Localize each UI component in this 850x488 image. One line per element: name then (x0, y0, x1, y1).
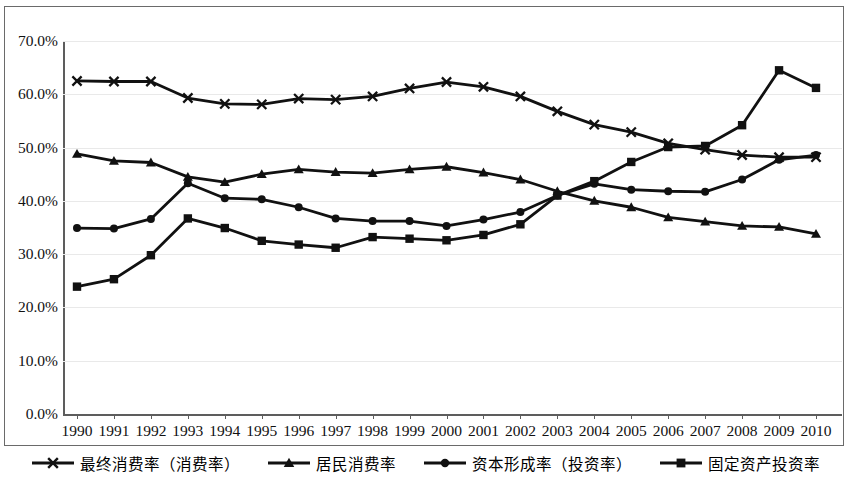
circle-marker-icon (422, 455, 468, 471)
data-point-marker (406, 217, 414, 225)
data-point-marker (701, 188, 709, 196)
x-axis-tick-mark (816, 414, 817, 419)
x-axis-tick-label: 1993 (172, 422, 203, 440)
x-axis-tick-mark (151, 414, 152, 419)
x-axis-tick-mark (299, 414, 300, 419)
data-point-marker (441, 459, 449, 467)
x-axis-tick-label: 2010 (801, 422, 832, 440)
x-axis-tick-mark (594, 414, 595, 419)
data-point-marker (664, 187, 672, 195)
legend-item-3[interactable]: 固定资产投资率 (658, 452, 820, 474)
legend-label: 最终消费率（消费率） (80, 452, 240, 474)
series-lines (63, 41, 842, 414)
data-point-marker (73, 224, 81, 232)
x-axis-tick-label: 2005 (616, 422, 647, 440)
data-point-marker (738, 176, 746, 184)
data-point-marker (73, 282, 81, 290)
x-marker-icon (30, 455, 76, 471)
x-axis-tick-label: 2004 (579, 422, 610, 440)
x-axis-tick-label: 2007 (690, 422, 721, 440)
x-axis-tick-mark (336, 414, 337, 419)
data-point-marker (553, 191, 561, 199)
data-point-marker (110, 225, 118, 233)
y-axis-labels: 0.0%10.0%20.0%30.0%40.0%50.0%60.0%70.0% (0, 0, 58, 488)
x-axis-tick-mark (520, 414, 521, 419)
x-axis-tick-mark (188, 414, 189, 419)
legend-item-1[interactable]: 居民消费率 (266, 452, 396, 474)
data-point-marker (258, 237, 266, 245)
x-axis-tick-label: 1998 (357, 422, 388, 440)
data-point-marker (812, 84, 820, 92)
x-axis-tick-mark (631, 414, 632, 419)
data-point-marker (221, 224, 229, 232)
x-axis-tick-label: 2003 (542, 422, 573, 440)
x-axis-tick-label: 2002 (505, 422, 536, 440)
data-point-marker (664, 143, 672, 151)
x-axis-tick-mark (410, 414, 411, 419)
x-axis-tick-mark (77, 414, 78, 419)
chart-figure: 0.0%10.0%20.0%30.0%40.0%50.0%60.0%70.0% … (0, 0, 850, 488)
data-point-marker (405, 234, 413, 242)
x-axis-tick-mark (447, 414, 448, 419)
data-point-marker (775, 66, 783, 74)
data-point-marker (516, 208, 524, 216)
data-point-marker (479, 231, 487, 239)
data-point-marker (295, 203, 303, 211)
y-axis-tick-label: 30.0% (2, 246, 58, 262)
x-axis-tick-label: 1999 (394, 422, 425, 440)
data-point-marker (331, 244, 339, 252)
plot-area (63, 41, 842, 414)
triangle-marker-icon (266, 455, 312, 471)
data-point-marker (147, 251, 155, 259)
legend-label: 资本形成率（投资率） (472, 452, 632, 474)
x-axis-tick-mark (114, 414, 115, 419)
data-point-marker (368, 233, 376, 241)
x-axis-line (63, 414, 842, 416)
y-axis-tick-label: 0.0% (2, 406, 58, 422)
data-point-marker (738, 121, 746, 129)
legend-label: 固定资产投资率 (708, 452, 820, 474)
chart-legend: 最终消费率（消费率）居民消费率资本形成率（投资率）固定资产投资率 (0, 452, 850, 474)
data-point-marker (627, 158, 635, 166)
y-axis-tick-label: 20.0% (2, 299, 58, 315)
x-axis-tick-label: 2006 (653, 422, 684, 440)
x-axis-tick-label: 1997 (320, 422, 351, 440)
legend-item-0[interactable]: 最终消费率（消费率） (30, 452, 240, 474)
x-axis-tick-mark (668, 414, 669, 419)
x-axis-tick-label: 1995 (246, 422, 277, 440)
x-axis-tick-label: 1990 (62, 422, 93, 440)
data-point-marker (258, 195, 266, 203)
data-point-marker (479, 216, 487, 224)
x-axis-tick-mark (225, 414, 226, 419)
data-point-marker (701, 142, 709, 150)
legend-label: 居民消费率 (316, 452, 396, 474)
data-point-marker (812, 151, 820, 159)
x-axis-tick-label: 1991 (98, 422, 129, 440)
data-point-marker (184, 179, 192, 187)
data-point-marker (110, 275, 118, 283)
data-point-marker (147, 215, 155, 223)
data-point-marker (332, 214, 340, 222)
x-axis-tick-mark (705, 414, 706, 419)
x-axis-tick-label: 2009 (764, 422, 795, 440)
x-axis-tick-label: 1994 (209, 422, 240, 440)
y-axis-tick-label: 10.0% (2, 353, 58, 369)
data-point-marker (221, 194, 229, 202)
x-axis-tick-label: 2008 (727, 422, 758, 440)
x-axis-tick-label: 2000 (431, 422, 462, 440)
x-axis-tick-mark (373, 414, 374, 419)
y-axis-tick-label: 70.0% (2, 33, 58, 49)
x-axis-tick-mark (557, 414, 558, 419)
x-axis-tick-label: 1996 (283, 422, 314, 440)
data-point-marker (677, 459, 686, 468)
data-point-marker (295, 240, 303, 248)
y-axis-tick-label: 40.0% (2, 193, 58, 209)
data-point-marker (184, 214, 192, 222)
y-axis-tick-label: 50.0% (2, 140, 58, 156)
x-axis-tick-mark (262, 414, 263, 419)
x-axis-tick-mark (742, 414, 743, 419)
legend-item-2[interactable]: 资本形成率（投资率） (422, 452, 632, 474)
data-point-marker (590, 177, 598, 185)
x-axis-tick-mark (483, 414, 484, 419)
data-point-marker (775, 156, 783, 164)
